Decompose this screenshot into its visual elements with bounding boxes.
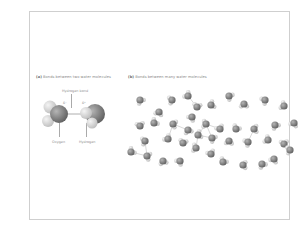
oxygen-atom [280,102,287,109]
oxygen-atom [286,146,293,153]
oxygen-atom [168,96,175,103]
oxygen-atom [193,103,200,110]
water-molecule [191,143,200,153]
water-molecule [136,96,146,105]
water-molecule [174,157,183,166]
water-molecule [239,160,247,170]
oxygen-atom [207,101,214,108]
oxygen-atom [239,161,246,168]
oxygen-atom [216,125,223,132]
water-molecule [186,113,195,122]
water-molecule [268,155,278,164]
water-molecule [214,123,224,132]
oxygen-atom [184,126,191,133]
water-molecule [225,92,234,101]
oxygen-atom [164,135,171,142]
water-molecule [184,126,194,135]
oxygen-atom [143,152,150,159]
water-molecule [201,119,209,129]
oxygen-atom [207,150,214,157]
oxygen-atom [250,125,257,132]
oxygen-atom [127,148,134,155]
oxygen-atom [219,158,226,165]
oxygen-atom [290,119,297,126]
water-molecule [205,149,215,158]
water-molecule [169,120,178,130]
oxygen-atom [155,108,162,115]
oxygen-atom [192,144,199,151]
water-molecule [208,134,217,143]
oxygen-atom [244,138,251,145]
oxygen-atom [208,134,215,141]
oxygen-atom [136,96,143,103]
water-molecule [242,138,251,148]
oxygen-atom [232,125,239,132]
water-molecule [159,157,169,166]
water-molecule [127,146,136,156]
oxygen-atom [225,92,232,99]
oxygen-atom [225,137,232,144]
water-molecule [140,136,149,146]
oxygen-atom [141,137,148,144]
water-molecule [258,160,267,169]
oxygen-atom [261,96,268,103]
oxygen-atom [271,121,278,128]
water-molecule [135,121,145,130]
oxygen-atom [159,157,166,164]
oxygen-atom [184,92,191,99]
water-molecule [153,108,163,117]
water-molecule [259,96,268,105]
water-molecule [239,100,249,108]
oxygen-atom [264,136,271,143]
water-molecule [219,156,228,165]
water-molecule [162,133,171,142]
water-molecule [194,129,203,139]
water-molecule [285,145,294,155]
oxygen-atom [150,119,157,126]
oxygen-atom [136,122,143,129]
water-molecule [178,138,188,147]
water-molecule [150,117,159,126]
water-molecule [143,152,152,162]
water-molecule [232,123,241,132]
water-molecule [182,90,191,99]
oxygen-atom [270,155,277,162]
oxygen-atom [179,139,186,146]
water-molecule [278,100,287,110]
water-molecule [262,134,271,144]
oxygen-atom [169,120,176,127]
water-molecule [250,124,258,134]
water-network-illustration [0,0,302,233]
oxygen-atom [202,120,209,127]
oxygen-atom [240,100,247,107]
oxygen-atom [258,160,265,167]
water-molecule [288,119,298,128]
water-molecule [207,99,216,109]
oxygen-atom [194,131,201,138]
water-molecule [192,102,202,111]
water-molecule [271,121,280,130]
water-molecule [167,96,176,106]
oxygen-atom [188,113,195,120]
oxygen-atom [176,157,183,164]
water-molecule [224,137,234,145]
